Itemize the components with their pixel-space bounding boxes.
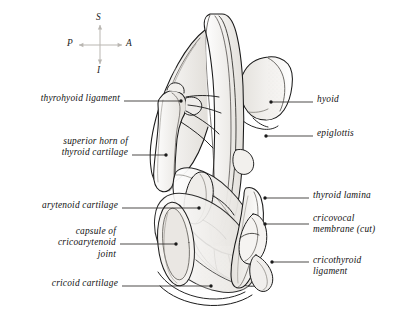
- triticeal-process-shape: [233, 149, 254, 174]
- compass-label-anterior: A: [126, 38, 132, 48]
- label-superior-horn-of-thyroid-cartilage: superior horn of thyroid cartilage: [62, 136, 128, 159]
- label-hyoid: hyoid: [317, 94, 339, 105]
- label-line: cricothyroid: [313, 255, 361, 266]
- label-epiglottis: epiglottis: [317, 128, 354, 139]
- label-line: epiglottis: [317, 128, 354, 139]
- label-line: thyrohyoid ligament: [41, 93, 120, 104]
- leader-epiglottis: [264, 134, 313, 137]
- leader-thyroid-lamina: [263, 196, 309, 199]
- label-capsule-of-cricoarytenoid-joint: capsule of cricoarytenoid joint: [58, 226, 116, 260]
- label-line: arytenoid cartilage: [42, 200, 118, 211]
- label-line: thyroid cartilage: [62, 147, 128, 158]
- label-line: joint: [58, 249, 116, 260]
- label-line: ligament: [313, 266, 361, 277]
- label-line: thyroid lamina: [313, 190, 371, 201]
- orientation-compass-graphic: [79, 25, 122, 64]
- compass-label-inferior: I: [97, 65, 100, 75]
- label-line: superior horn of: [62, 136, 128, 147]
- label-thyroid-lamina: thyroid lamina: [313, 190, 371, 201]
- hyoid-shape: [240, 57, 292, 130]
- compass-label-posterior: P: [67, 38, 73, 48]
- label-line: cricoarytenoid: [58, 237, 116, 248]
- label-line: cricovocal: [313, 213, 375, 224]
- label-line: hyoid: [317, 94, 339, 105]
- label-line: membrane (cut): [313, 224, 375, 235]
- label-line: capsule of: [58, 226, 116, 237]
- label-cricoid-cartilage: cricoid cartilage: [52, 278, 118, 289]
- label-line: cricoid cartilage: [52, 278, 118, 289]
- compass-label-superior: S: [96, 12, 101, 22]
- label-thyrohyoid-ligament: thyrohyoid ligament: [41, 93, 120, 104]
- anatomical-figure-page: S I P A thyrohyoid ligament superior hor…: [0, 0, 408, 317]
- leader-cricothyroid-ligament: [270, 260, 309, 263]
- leader-cricovocal-membrane: [263, 222, 309, 225]
- label-arytenoid-cartilage: arytenoid cartilage: [42, 200, 118, 211]
- label-cricothyroid-ligament: cricothyroid ligament: [313, 255, 361, 278]
- label-cricovocal-membrane-cut: cricovocal membrane (cut): [313, 213, 375, 236]
